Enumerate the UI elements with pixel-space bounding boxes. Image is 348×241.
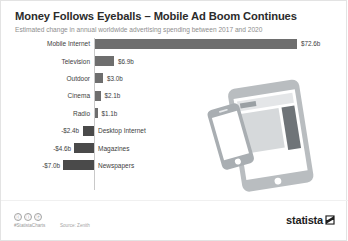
bar-rows: Mobile Internet $72.6b Television $6.9b … [1, 35, 348, 174]
bar-value-label: -$7.0b [10, 162, 60, 169]
bar-value-label: -$4.6b [21, 145, 71, 152]
bar-category-label: Cinema [6, 92, 94, 99]
bar-category-label: Outdoor [6, 75, 94, 82]
page-title: Money Follows Eyeballs – Mobile Ad Boom … [15, 10, 332, 23]
bar-category-label: Television [6, 58, 94, 65]
bar-category-label: Newspapers [98, 162, 134, 169]
bar-row-radio: Radio $1.1b [1, 105, 348, 122]
bar-value-label: $72.6b [301, 40, 320, 47]
bar-row-desktop-internet: -$2.4b Desktop Internet [1, 122, 348, 139]
statista-wordmark: statista [286, 214, 323, 226]
bar-row-television: Television $6.9b [1, 52, 348, 69]
chart-footer: ⓒ ⓘ ⓔ #StatistaCharts Source: Zenith sta… [1, 200, 348, 240]
bar-row-mobile-internet: Mobile Internet $72.6b [1, 35, 348, 52]
bar-row-outdoor: Outdoor $3.0b [1, 70, 348, 87]
bar-value-label: $2.1b [105, 92, 121, 99]
chart-plot-area: Mobile Internet $72.6b Television $6.9b … [1, 35, 348, 195]
cc-by-icon: ⓘ [24, 213, 32, 221]
bar-value-label: $6.9b [118, 58, 134, 65]
bar-row-magazines: -$4.6b Magazines [1, 139, 348, 156]
creative-commons-badges: ⓒ ⓘ ⓔ [14, 213, 42, 221]
bar-outdoor [95, 73, 103, 83]
bar-television [95, 56, 114, 66]
cc-icon: ⓒ [14, 213, 22, 221]
source-attribution: Source: Zenith [60, 223, 90, 228]
bar-newspapers [63, 160, 94, 170]
bar-mobile-internet [95, 39, 297, 49]
bar-cinema [95, 91, 101, 101]
statista-charts-hashtag: #StatistaCharts [14, 223, 45, 228]
statista-flag-icon [325, 215, 335, 225]
chart-subtitle: Estimated change in annual worldwide adv… [15, 26, 332, 34]
statista-logo: statista [286, 214, 335, 226]
bar-value-label: $1.1b [102, 110, 118, 117]
bar-magazines [74, 143, 95, 153]
bar-row-newspapers: -$7.0b Newspapers [1, 157, 348, 174]
bar-row-cinema: Cinema $2.1b [1, 87, 348, 104]
chart-header: Money Follows Eyeballs – Mobile Ad Boom … [1, 1, 346, 34]
bar-desktop-internet [83, 126, 94, 136]
cc-nd-icon: ⓔ [34, 213, 42, 221]
bar-radio [95, 108, 98, 118]
footer-divider [1, 200, 348, 201]
bar-category-label: Magazines [98, 145, 129, 152]
bar-category-label: Radio [6, 110, 94, 117]
bar-value-label: -$2.4b [29, 127, 79, 134]
bar-category-label: Desktop Internet [98, 127, 146, 134]
bar-value-label: $3.0b [107, 75, 123, 82]
bar-category-label: Mobile Internet [6, 40, 94, 47]
